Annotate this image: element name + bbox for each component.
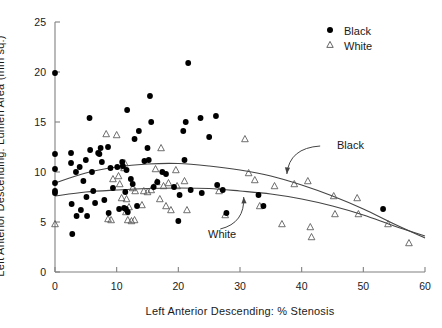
data-point-white bbox=[251, 177, 258, 183]
data-point-black bbox=[146, 157, 152, 163]
data-point-black bbox=[125, 209, 131, 215]
y-tick-label: 15 bbox=[0, 116, 46, 128]
data-point-black bbox=[163, 171, 169, 177]
data-point-white bbox=[165, 180, 172, 186]
data-point-black bbox=[69, 201, 75, 207]
data-point-black bbox=[130, 181, 136, 187]
data-point-black bbox=[183, 119, 189, 125]
data-point-black bbox=[110, 185, 116, 191]
chart-legend: Black White bbox=[322, 23, 372, 53]
data-point-black bbox=[188, 187, 194, 193]
data-point-white bbox=[307, 224, 314, 230]
chart-figure: 0102030405060 0510152025 Left Anterior D… bbox=[0, 0, 442, 328]
data-point-black bbox=[213, 113, 219, 119]
data-point-black bbox=[380, 206, 386, 212]
data-point-black bbox=[134, 203, 140, 209]
data-point-black bbox=[74, 213, 80, 219]
x-axis-title: Left Anterior Descending: % Stenosis bbox=[146, 305, 335, 317]
data-point-black bbox=[73, 169, 79, 175]
data-point-black bbox=[220, 187, 226, 193]
data-point-black bbox=[90, 188, 96, 194]
annotation-white-arrowhead bbox=[241, 197, 246, 204]
data-point-black bbox=[89, 169, 95, 175]
data-point-black bbox=[52, 70, 58, 76]
data-point-black bbox=[101, 197, 107, 203]
data-point-white bbox=[173, 167, 180, 173]
data-point-black bbox=[87, 115, 93, 121]
x-tick-label: 10 bbox=[111, 280, 123, 292]
data-point-white bbox=[406, 240, 413, 246]
x-tick-label: 40 bbox=[296, 280, 308, 292]
data-point-black bbox=[52, 151, 58, 157]
data-point-black bbox=[224, 210, 230, 216]
data-point-black bbox=[105, 144, 111, 150]
data-point-white bbox=[152, 166, 159, 172]
data-point-white bbox=[163, 203, 170, 209]
annotation-arrows bbox=[220, 146, 320, 229]
x-tick-label: 20 bbox=[172, 280, 184, 292]
data-point-black bbox=[154, 179, 160, 185]
data-point-black bbox=[148, 119, 154, 125]
y-tick-label: 25 bbox=[0, 16, 46, 28]
data-point-black bbox=[87, 147, 93, 153]
data-point-white bbox=[116, 181, 123, 187]
data-series-black bbox=[52, 60, 386, 237]
data-point-black bbox=[108, 165, 114, 171]
data-point-black bbox=[124, 167, 130, 173]
fit-curves bbox=[55, 163, 425, 238]
data-point-black bbox=[84, 213, 90, 219]
data-point-black bbox=[83, 157, 89, 163]
data-point-black bbox=[180, 128, 186, 134]
data-point-black bbox=[199, 190, 205, 196]
data-point-black bbox=[92, 200, 98, 206]
data-point-black bbox=[98, 145, 104, 151]
y-tick-label: 5 bbox=[0, 216, 46, 228]
x-tick-label: 30 bbox=[234, 280, 246, 292]
curve-annotation-black: Black bbox=[337, 139, 364, 151]
data-point-black bbox=[84, 194, 90, 200]
data-point-black bbox=[68, 150, 74, 156]
data-point-white bbox=[308, 234, 315, 240]
data-point-black bbox=[177, 192, 183, 198]
data-point-black bbox=[182, 157, 188, 163]
data-point-black bbox=[128, 176, 134, 182]
data-point-white bbox=[305, 178, 312, 184]
y-tick-label: 0 bbox=[0, 266, 46, 278]
y-tick-label: 10 bbox=[0, 166, 46, 178]
data-point-white bbox=[115, 173, 122, 179]
data-point-black bbox=[136, 128, 142, 134]
data-point-black bbox=[52, 190, 58, 196]
y-axis-title: Left Anterior Descending: Lumen Area (mm… bbox=[0, 35, 6, 276]
data-point-black bbox=[52, 166, 58, 172]
data-point-black bbox=[114, 164, 120, 170]
data-point-black bbox=[122, 189, 128, 195]
data-point-white bbox=[157, 196, 164, 202]
data-point-black bbox=[69, 231, 75, 237]
data-point-black bbox=[116, 206, 122, 212]
data-point-white bbox=[332, 211, 339, 217]
data-point-white bbox=[184, 207, 191, 213]
data-point-white bbox=[354, 195, 361, 201]
x-tick-label: 0 bbox=[52, 280, 58, 292]
data-point-black bbox=[261, 203, 267, 209]
data-point-white bbox=[113, 132, 120, 138]
y-tick-label: 20 bbox=[0, 66, 46, 78]
data-point-black bbox=[77, 164, 83, 170]
data-point-black bbox=[185, 60, 191, 66]
data-point-black bbox=[206, 134, 212, 140]
data-point-black bbox=[99, 159, 105, 165]
x-tick-label: 60 bbox=[419, 280, 431, 292]
data-point-white bbox=[103, 131, 110, 137]
data-point-black bbox=[80, 178, 86, 184]
data-point-black bbox=[78, 207, 84, 213]
data-point-black bbox=[147, 93, 153, 99]
data-point-black bbox=[145, 145, 151, 151]
legend-label-white: White bbox=[344, 40, 372, 52]
data-point-black bbox=[256, 192, 262, 198]
annotation-black-leader bbox=[287, 146, 320, 174]
data-point-black bbox=[124, 107, 130, 113]
legend-item-white: White bbox=[322, 38, 372, 53]
fit-curve-black bbox=[55, 163, 425, 238]
data-point-white bbox=[279, 221, 286, 227]
data-point-black bbox=[52, 180, 58, 186]
